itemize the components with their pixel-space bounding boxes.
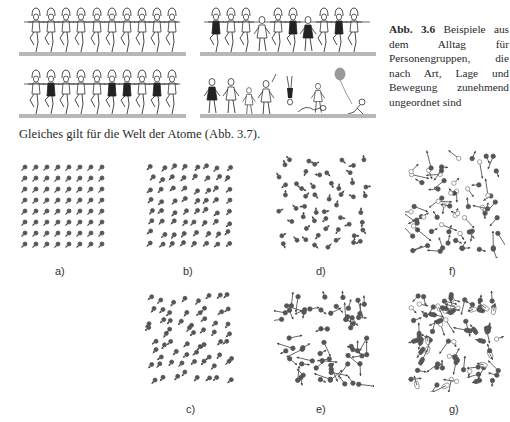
panel-c-label: c) <box>186 403 195 415</box>
panel-c <box>145 292 237 388</box>
panel-g <box>405 290 505 392</box>
panel-a <box>18 160 108 250</box>
lattice-panel-b <box>145 160 237 252</box>
panel-e-label: e) <box>316 403 326 415</box>
molecules-panel-f <box>405 150 505 258</box>
lattice-panel-a <box>18 160 108 250</box>
disordered-people-scene <box>200 68 376 118</box>
panel-b-label: b) <box>183 265 193 277</box>
panel-f <box>405 150 505 258</box>
caption-label: Abb. 3.6 <box>389 23 435 35</box>
kickline-top-right <box>200 8 376 56</box>
molecules-panel-g <box>405 290 505 392</box>
lattice-panel-c <box>145 292 237 388</box>
kickline-bottom-left <box>19 70 186 118</box>
panel-f-label: f) <box>449 265 456 277</box>
molecules-panel-e <box>274 290 374 392</box>
panel-d-label: d) <box>316 265 326 277</box>
panel-e <box>274 290 374 392</box>
panel-g-label: g) <box>449 403 459 415</box>
kickline-top-left <box>19 8 186 56</box>
panel-b <box>145 160 237 252</box>
caption-text: Beispiele aus dem Alltag für Personengru… <box>389 23 509 108</box>
figure-3-6-caption: Abb. 3.6 Beispiele aus dem Alltag für Pe… <box>389 22 509 110</box>
molecules-panel-d <box>274 155 374 255</box>
panel-a-label: a) <box>55 265 65 277</box>
panel-d <box>274 155 374 255</box>
body-paragraph: Gleiches gilt für die Welt der Atome (Ab… <box>19 127 260 142</box>
